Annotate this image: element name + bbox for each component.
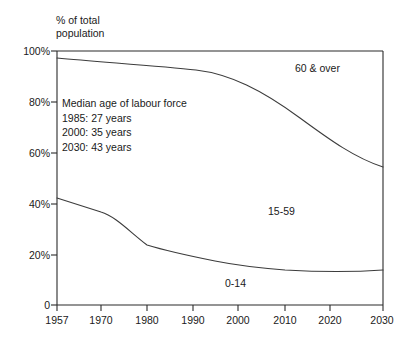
series-label-15-59: 15-59 [268,205,295,217]
series-label-0-14: 0-14 [225,277,246,289]
median-age-note: Median age of labour force 1985: 27 year… [62,96,187,154]
series-label-60-over: 60 & over [295,62,340,74]
plot-area [0,0,409,346]
x-tick-marks [57,305,383,311]
series-curve-0-14 [57,198,383,272]
y-tick-marks [51,51,57,305]
chart-figure: % of total population 100% 80% 60% 40% 2… [0,0,409,346]
